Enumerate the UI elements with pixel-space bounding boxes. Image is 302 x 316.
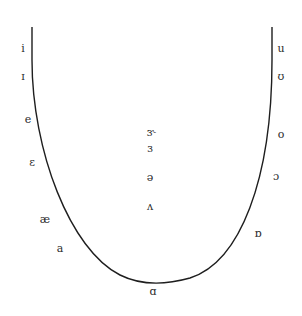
vowel-boundary-line bbox=[32, 27, 272, 283]
vowel-o: o bbox=[278, 129, 285, 140]
vowel-upsilon: ʊ bbox=[278, 71, 285, 82]
vowel-script-a: ɑ bbox=[149, 286, 156, 297]
vowel-schwa: ə bbox=[147, 172, 154, 183]
vowel-open-o: ɔ bbox=[273, 171, 279, 182]
vowel-turned-v: ʌ bbox=[147, 201, 153, 212]
vowel-open-e: ɛ bbox=[29, 157, 35, 168]
vowel-diagram: i ɪ e ɛ æ a u ʊ o ɔ ɒ ɑ ɝ ɜ ə ʌ bbox=[0, 0, 302, 316]
vowel-a: a bbox=[57, 243, 64, 254]
vowel-ash: æ bbox=[40, 214, 50, 225]
vowel-i: i bbox=[21, 43, 25, 54]
vowel-rhotic-reversed-e: ɝ bbox=[147, 127, 156, 138]
vowel-reversed-open-e: ɜ bbox=[147, 143, 153, 154]
vowel-space-curve bbox=[0, 0, 302, 316]
vowel-small-capital-i: ɪ bbox=[21, 71, 25, 82]
vowel-e: e bbox=[25, 114, 32, 125]
vowel-turned-script-a: ɒ bbox=[254, 228, 261, 239]
vowel-u: u bbox=[277, 43, 284, 54]
